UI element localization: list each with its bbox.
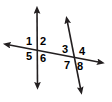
angle-label-4: 4 xyxy=(79,46,85,57)
angle-label-3: 3 xyxy=(62,44,68,55)
angle-label-2: 2 xyxy=(40,36,46,47)
angle-label-7: 7 xyxy=(64,60,70,71)
vertical-line xyxy=(37,10,38,86)
angle-label-1: 1 xyxy=(26,36,32,47)
angle-label-6: 6 xyxy=(40,53,46,64)
horizontal-transversal xyxy=(7,45,101,63)
geometry-canvas xyxy=(0,0,112,102)
geometry-diagram: 1 2 5 6 3 4 7 8 xyxy=(0,0,112,102)
angle-label-8: 8 xyxy=(77,61,83,72)
angle-label-5: 5 xyxy=(26,51,32,62)
